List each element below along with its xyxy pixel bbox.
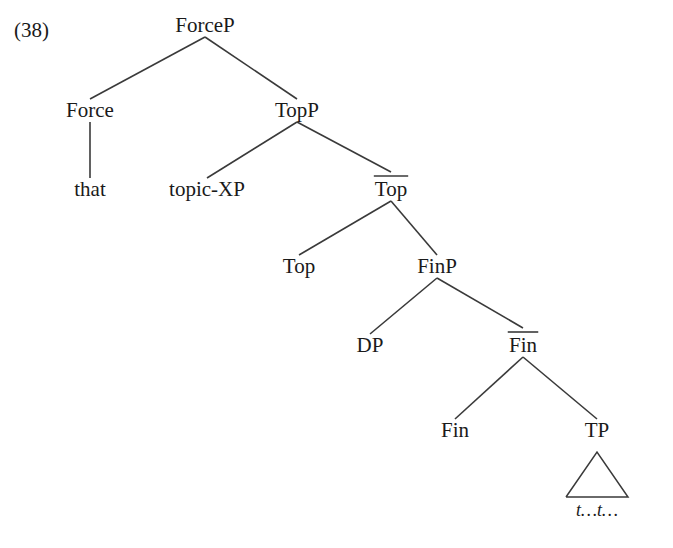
node-label-layer: ForcePForcethatTopPtopic-XPTopTopFinPDPF…	[66, 13, 609, 442]
tree-node-that: that	[74, 177, 106, 201]
tree-node-finBar: Fin	[509, 333, 538, 357]
tp-expansion-triangle	[566, 452, 628, 497]
tree-node-topP: TopP	[275, 98, 319, 122]
triangle-layer: t…t…	[566, 452, 628, 520]
tree-node-force: Force	[66, 98, 114, 122]
syntax-tree-figure: (38) t…t… ForcePForcethatTopPtopic-XPTop…	[0, 0, 673, 548]
syntax-tree-svg: t…t… ForcePForcethatTopPtopic-XPTopTopFi…	[0, 0, 673, 548]
branch-topBar-to-top	[299, 201, 391, 255]
branch-finP-to-finBar	[437, 278, 523, 328]
branch-finBar-to-fin	[455, 357, 523, 419]
branch-forceP-to-topP	[205, 37, 297, 99]
branch-finP-to-dp	[370, 278, 437, 334]
example-number: (38)	[14, 18, 49, 43]
branch-topP-to-topBar	[297, 122, 391, 172]
branch-forceP-to-force	[90, 37, 205, 99]
tree-node-fin: Fin	[441, 418, 470, 442]
branch-layer	[90, 37, 597, 419]
tree-node-topicXP: topic-XP	[169, 177, 245, 201]
branch-topP-to-topicXP	[207, 122, 297, 178]
tree-node-finP: FinP	[417, 254, 457, 278]
tree-node-tp: TP	[585, 418, 610, 442]
trace-label: t…t…	[576, 500, 618, 520]
branch-finBar-to-tp	[523, 357, 597, 419]
tree-node-top: Top	[283, 254, 315, 278]
tree-node-dp: DP	[357, 333, 384, 357]
tree-node-forceP: ForceP	[175, 13, 235, 37]
branch-topBar-to-finP	[391, 201, 437, 255]
tree-node-topBar: Top	[375, 177, 407, 201]
